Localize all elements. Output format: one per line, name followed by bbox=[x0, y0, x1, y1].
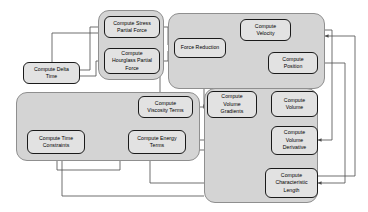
node-label: Compute Viscosity Terms bbox=[141, 100, 190, 115]
diagram-canvas: Compute Stress Partial ForceCompute Hour… bbox=[0, 0, 368, 212]
compute-energy-terms[interactable]: Compute Energy Terms bbox=[128, 130, 186, 154]
node-label: Compute Position bbox=[271, 56, 315, 71]
node-label: Force Reduction bbox=[177, 44, 223, 51]
node-label: Compute Stress Partial Force bbox=[107, 20, 157, 35]
compute-stress-partial-force[interactable]: Compute Stress Partial Force bbox=[104, 16, 160, 38]
node-label: Compute Time Constraints bbox=[30, 135, 82, 150]
node-label: Compute Volume Gradients bbox=[210, 93, 254, 115]
force-reduction[interactable]: Force Reduction bbox=[174, 38, 226, 58]
node-label: Compute Velocity bbox=[243, 23, 288, 38]
compute-velocity[interactable]: Compute Velocity bbox=[240, 19, 291, 41]
compute-time-constraints[interactable]: Compute Time Constraints bbox=[27, 130, 85, 154]
node-label: Compute Characteristic Length bbox=[268, 172, 315, 194]
compute-volume-gradients[interactable]: Compute Volume Gradients bbox=[207, 91, 257, 118]
node-label: Compute Hourglass Partial Force bbox=[107, 50, 157, 72]
compute-viscosity-terms[interactable]: Compute Viscosity Terms bbox=[138, 96, 193, 118]
compute-position[interactable]: Compute Position bbox=[268, 52, 318, 74]
compute-hourglass-partial-force[interactable]: Compute Hourglass Partial Force bbox=[104, 48, 160, 74]
node-label: Compute Delta Time bbox=[26, 66, 77, 81]
node-label: Compute Volume bbox=[274, 97, 315, 112]
node-label: Compute Energy Terms bbox=[131, 135, 183, 150]
node-label: Compute Volume Derivative bbox=[274, 129, 315, 151]
edge-volderiv-bottom-route bbox=[62, 156, 204, 196]
compute-volume[interactable]: Compute Volume bbox=[271, 91, 318, 117]
compute-characteristic-length[interactable]: Compute Characteristic Length bbox=[265, 168, 318, 198]
compute-delta-time[interactable]: Compute Delta Time bbox=[23, 62, 80, 84]
compute-volume-derivative[interactable]: Compute Volume Derivative bbox=[271, 126, 318, 155]
